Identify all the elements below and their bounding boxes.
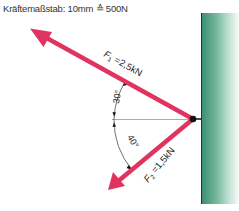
force-diagram: F1 =2,5kN F2 =1,5kN 30° 40° bbox=[0, 0, 239, 211]
arrowhead-f1 bbox=[30, 29, 52, 48]
force-node bbox=[190, 116, 197, 123]
force-arrow-f1 bbox=[44, 37, 193, 120]
arc-arrowhead-mid-bottom bbox=[113, 123, 117, 128]
angle-label-lower: 40° bbox=[125, 133, 141, 150]
arc-arrowhead-mid-top bbox=[113, 112, 117, 117]
angle-label-upper: 30° bbox=[111, 89, 123, 105]
f1-label: F1 =2,5kN bbox=[102, 48, 145, 79]
arrowhead-f2 bbox=[108, 172, 125, 190]
f2-label: F2 =1,5kN bbox=[141, 145, 178, 185]
